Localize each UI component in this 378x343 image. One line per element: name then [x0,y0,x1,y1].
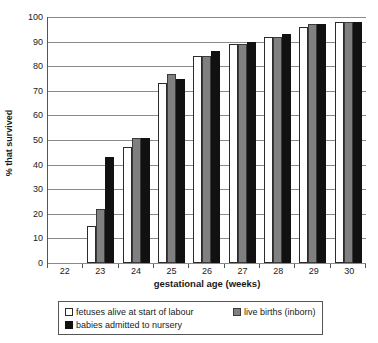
y-axis-title: % that survived [0,0,18,285]
legend-label-fetuses-alive: fetuses alive at start of labour [76,307,194,317]
bar [299,27,308,263]
legend-item-babies-admitted: babies admitted to nursery [65,320,233,330]
bar [158,83,167,263]
x-axis-tick-label: 22 [47,265,83,279]
y-axis-tick-label: 70 [33,86,43,96]
white-square-swatch-icon [65,308,73,316]
bar-group [225,17,260,263]
bar [141,138,150,263]
x-axis-tick-label: 30 [332,265,368,279]
x-axis-tick-label: 29 [296,265,332,279]
legend-label-babies-admitted: babies admitted to nursery [76,320,182,330]
bar [167,74,176,263]
legend-item-live-births: live births (inborn) [233,307,316,317]
bar [96,209,105,263]
x-axis-tick-label: 28 [260,265,296,279]
bar-chart-figure: % that survived 0102030405060708090100 2… [0,0,378,343]
bar [193,56,202,263]
bar [247,42,256,263]
y-axis-tick-label: 90 [33,37,43,47]
bar [344,22,353,263]
bar [308,24,317,263]
y-axis-tick-label: 40 [33,160,43,170]
y-axis-tick-label: 10 [33,233,43,243]
bar [202,56,211,263]
y-axis-tick-label: 60 [33,110,43,120]
bar [273,37,282,263]
gray-square-swatch-icon [233,308,241,316]
y-axis-tick-label: 30 [33,184,43,194]
y-axis-tick-labels: 0102030405060708090100 [18,11,46,263]
bar [123,147,132,263]
x-axis-tick-label: 25 [154,265,190,279]
gridline [48,263,366,264]
x-axis-tick-label: 24 [118,265,154,279]
bar [282,34,291,263]
y-axis-tick-label: 20 [33,209,43,219]
y-axis-title-text: % that survived [4,109,14,176]
chart-legend: fetuses alive at start of labour live bi… [58,301,323,335]
bar-group [295,17,330,263]
bar-group [48,17,83,263]
x-axis-tick-label: 26 [189,265,225,279]
bar-group [260,17,295,263]
legend-item-fetuses-alive: fetuses alive at start of labour [65,307,233,317]
bar [317,24,326,263]
bar [238,44,247,263]
y-axis-tick-label: 50 [33,135,43,145]
bar-group [331,17,366,263]
x-axis-tick-label: 23 [83,265,119,279]
bar [229,44,238,263]
bar [211,51,220,263]
bar-group [189,17,224,263]
legend-row-1: fetuses alive at start of labour live bi… [65,305,317,318]
bar [176,79,185,264]
bar [353,22,362,263]
legend-row-2: babies admitted to nursery [65,318,317,331]
bar [87,226,96,263]
bar [132,138,141,263]
x-axis-tick-labels: 222324252627282930 [47,265,367,279]
bar [335,22,344,263]
y-axis-tick-label: 0 [38,258,43,268]
black-square-swatch-icon [65,321,73,329]
bar [264,37,273,263]
bar-group [119,17,154,263]
bar-group [83,17,118,263]
x-axis-title: gestational age (weeks) [47,278,367,289]
y-axis-tick-label: 100 [28,12,43,22]
legend-label-live-births: live births (inborn) [244,307,316,317]
plot-area [47,17,366,264]
x-axis-tick-label: 27 [225,265,261,279]
bar [105,157,114,263]
bar-group [154,17,189,263]
y-axis-tick-label: 80 [33,61,43,71]
bar-groups [48,17,366,263]
